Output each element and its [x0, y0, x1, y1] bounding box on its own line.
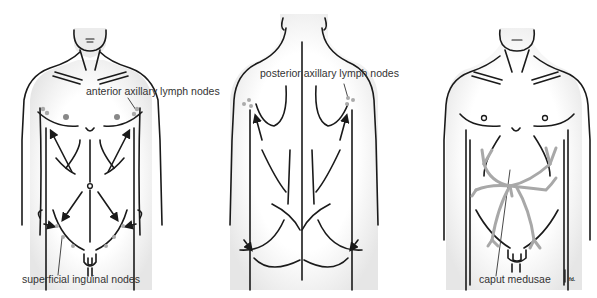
panel-caput-medusae	[444, 28, 590, 290]
label-anterior-axillary-lymph-nodes: anterior axillary lymph nodes	[86, 86, 220, 97]
illustrator-signature: fd.	[569, 276, 575, 282]
panel-anterior	[22, 28, 162, 290]
label-superficial-inguinal-nodes: superficial inguinal nodes	[22, 274, 140, 285]
lymph-drainage-figure	[0, 0, 597, 298]
label-posterior-axillary-lymph-nodes: posterior axillary lymph nodes	[260, 68, 399, 79]
panel-posterior	[230, 14, 378, 290]
label-caput-medusae: caput medusae	[479, 274, 551, 285]
